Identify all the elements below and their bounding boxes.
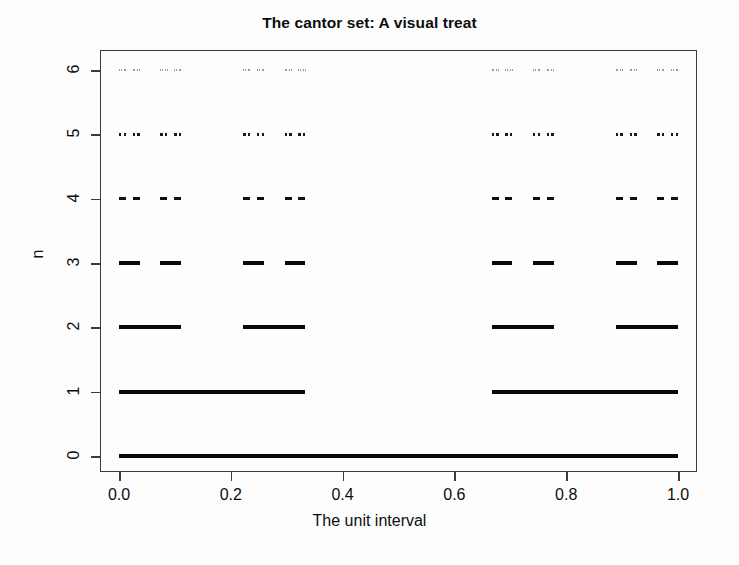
x-axis-tick-label: 0.8 bbox=[536, 486, 596, 504]
y-axis-tick-label: 6 bbox=[65, 49, 83, 89]
y-axis-tick-label: 4 bbox=[65, 178, 83, 218]
y-axis-tick-label: 2 bbox=[65, 306, 83, 346]
y-axis-tick bbox=[91, 392, 100, 394]
x-axis-tick-label: 0.6 bbox=[424, 486, 484, 504]
y-axis-tick-label: 5 bbox=[65, 113, 83, 153]
x-axis-tick bbox=[119, 472, 121, 481]
y-axis-tick bbox=[91, 263, 100, 265]
x-axis-tick-label: 0.2 bbox=[201, 486, 261, 504]
x-axis-tick bbox=[454, 472, 456, 481]
x-axis-tick bbox=[231, 472, 233, 481]
y-axis-tick bbox=[91, 199, 100, 201]
x-axis-label: The unit interval bbox=[0, 512, 739, 530]
y-axis-tick bbox=[91, 456, 100, 458]
y-axis-tick bbox=[91, 70, 100, 72]
y-axis-tick bbox=[91, 134, 100, 136]
page-title: The cantor set: A visual treat bbox=[0, 14, 739, 32]
x-axis-tick bbox=[343, 472, 345, 481]
y-axis-label: n bbox=[29, 234, 47, 274]
y-axis-tick-label: 1 bbox=[65, 371, 83, 411]
x-axis-tick-label: 1.0 bbox=[648, 486, 708, 504]
x-axis-tick bbox=[566, 472, 568, 481]
y-axis-tick bbox=[91, 327, 100, 329]
plot-frame bbox=[100, 50, 697, 472]
cantor-set-figure: The cantor set: A visual treat 0.00.20.4… bbox=[0, 0, 739, 565]
x-axis-tick bbox=[678, 472, 680, 481]
y-axis-tick-label: 0 bbox=[65, 435, 83, 475]
x-axis-tick-label: 0.0 bbox=[89, 486, 149, 504]
x-axis-tick-label: 0.4 bbox=[313, 486, 373, 504]
y-axis-tick-label: 3 bbox=[65, 242, 83, 282]
